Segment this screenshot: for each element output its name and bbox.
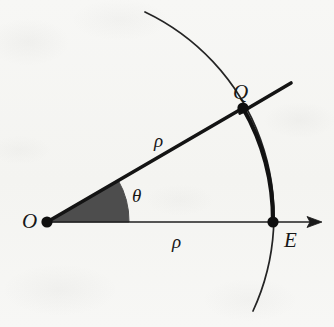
circle-arc-thin [145,12,274,311]
label-radius-upper-rho: ρ [154,131,163,150]
label-angle-theta: θ [132,186,141,205]
label-point-o: O [22,211,37,232]
label-point-e: E [284,230,297,251]
point-dot-O [41,216,52,227]
diagram-canvas [0,0,334,327]
label-radius-lower-rho: ρ [172,232,181,251]
point-dot-Q [237,102,248,113]
geometry-figure: O Q E θ ρ ρ [0,0,334,327]
point-dot-E [267,216,278,227]
radius-OQ-line [47,108,243,222]
label-point-q: Q [233,82,248,103]
